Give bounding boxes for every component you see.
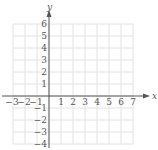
y-tick-label: 4: [41, 43, 47, 53]
y-tick-label: −2: [34, 115, 47, 125]
x-tick-label: 5: [106, 97, 112, 107]
y-axis-label: y: [46, 2, 53, 12]
y-tick-label: −3: [34, 127, 48, 137]
x-tick-label: 4: [94, 97, 100, 107]
y-tick-label: −4: [34, 139, 48, 149]
x-tick-label: 3: [82, 97, 88, 107]
coordinate-grid: x y −3−2−11234567 654321−1−2−3−4: [0, 0, 158, 150]
x-tick-label: 7: [130, 97, 136, 107]
x-tick-label: 6: [118, 97, 124, 107]
y-tick-label: 5: [41, 31, 47, 41]
x-axis-arrow-icon: [143, 94, 150, 99]
y-tick-label: 6: [41, 19, 47, 29]
y-tick-label: 1: [41, 79, 47, 89]
grid-lines: [13, 24, 133, 144]
x-tick-labels: −3−2−11234567: [5, 97, 136, 107]
x-tick-label: 2: [70, 97, 76, 107]
x-tick-label: 1: [58, 97, 64, 107]
y-tick-label: −1: [34, 103, 47, 113]
y-tick-label: 2: [41, 67, 47, 77]
y-tick-label: 3: [41, 55, 47, 65]
x-axis-label: x: [152, 91, 157, 101]
